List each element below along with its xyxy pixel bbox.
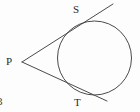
geometry-figure: P S T 3 (0, 0, 140, 112)
label-point-t: T (74, 97, 81, 108)
corner-number-mark: 3 (0, 96, 3, 107)
upper-tangent-line (22, 4, 113, 62)
figure-strokes (22, 4, 132, 101)
lower-tangent-line (22, 62, 107, 101)
label-point-s: S (73, 4, 79, 15)
figure-canvas (0, 0, 140, 112)
label-point-p: P (6, 56, 12, 67)
